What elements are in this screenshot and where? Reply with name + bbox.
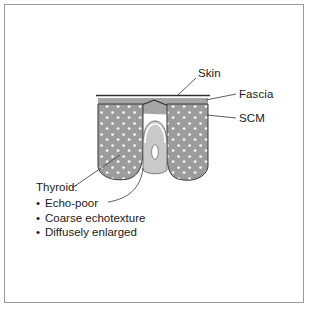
label-skin: Skin xyxy=(198,67,221,80)
thyroid-callout: Thyroid: • Echo-poor • Coarse echotextur… xyxy=(36,180,186,240)
figure-root: Skin Fascia SCM Thyroid: • Echo-poor • C… xyxy=(0,0,310,309)
list-item: • Coarse echotexture xyxy=(36,211,186,226)
leader-line-skin xyxy=(178,78,196,95)
trachea-lumen xyxy=(152,145,159,159)
label-fascia: Fascia xyxy=(239,88,273,101)
bullet-glyph: • xyxy=(36,211,40,226)
list-item: • Echo-poor xyxy=(36,196,186,211)
list-item-label: Diffusely enlarged xyxy=(45,226,137,238)
bullet-glyph: • xyxy=(36,225,40,240)
list-item-label: Echo-poor xyxy=(45,197,98,209)
anatomical-diagram xyxy=(0,0,310,309)
bullet-glyph: • xyxy=(36,196,40,211)
leader-line-scm xyxy=(207,115,236,118)
thyroid-feature-list: • Echo-poor • Coarse echotexture • Diffu… xyxy=(36,196,186,240)
leader-line-fascia xyxy=(206,94,236,100)
label-scm: SCM xyxy=(239,112,265,125)
thyroid-callout-title: Thyroid: xyxy=(36,180,186,194)
list-item-label: Coarse echotexture xyxy=(45,212,145,224)
thyroid-right-lobe xyxy=(167,104,208,180)
thyroid-left-lobe xyxy=(98,104,143,180)
list-item: • Diffusely enlarged xyxy=(36,225,186,240)
